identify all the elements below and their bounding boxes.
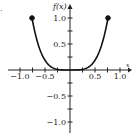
x-axis-label: x bbox=[126, 61, 130, 68]
endpoint-dot bbox=[106, 16, 111, 21]
y-axis bbox=[68, 4, 73, 133]
x-tick-label: 1.0 bbox=[114, 72, 127, 81]
endpoint-dot bbox=[30, 16, 35, 21]
y-tick-label: 0.5 bbox=[53, 40, 66, 49]
y-tick-label: −1.0 bbox=[47, 118, 66, 127]
x-axis-arrow-icon bbox=[128, 68, 132, 73]
x-tick-label: −0.5 bbox=[35, 72, 54, 81]
y-tick-label: 1.0 bbox=[53, 14, 66, 23]
y-axis-label: f(x) bbox=[52, 2, 67, 11]
x-tick-label: 0.5 bbox=[89, 72, 102, 81]
function-graph: . −1.0−0.50.51.01.00.5−0.5−1.0 f(x) x bbox=[0, 0, 132, 133]
x-tick-label: −1.0 bbox=[10, 72, 29, 81]
panel-marker: . bbox=[0, 4, 3, 13]
y-axis-arrow-icon bbox=[68, 4, 73, 9]
y-tick-label: −0.5 bbox=[47, 92, 66, 101]
